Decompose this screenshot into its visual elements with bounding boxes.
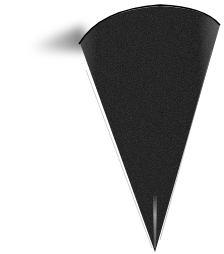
- cone-graphic: [0, 0, 224, 254]
- cone-texture: [80, 6, 220, 252]
- cone-scene: [0, 0, 224, 254]
